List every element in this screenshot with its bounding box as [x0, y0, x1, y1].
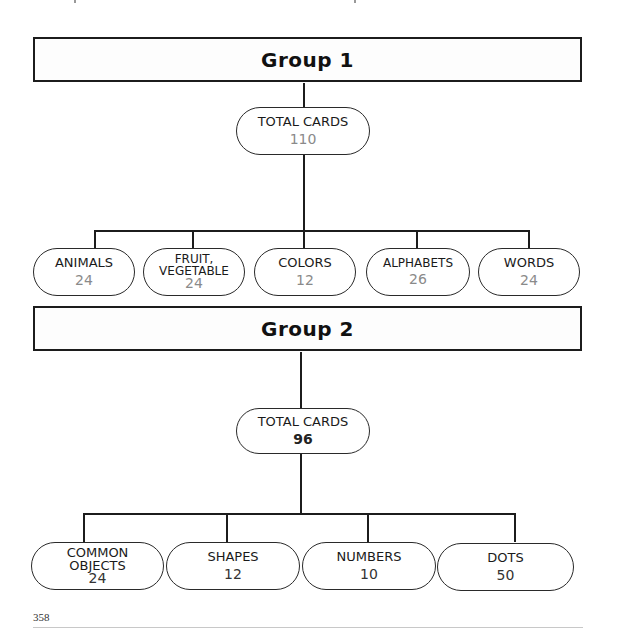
connector-g2-header-total [300, 352, 302, 408]
category-node-numbers: NUMBERS 10 [302, 542, 436, 590]
connector-g2-total-branch [300, 454, 302, 514]
connector-g2-drop-1 [83, 513, 85, 542]
connector-g2-branch-bar [83, 513, 516, 515]
total-count: 96 [293, 432, 312, 447]
connector-g1-drop-3 [303, 230, 305, 248]
group-2-title: Group 2 [261, 317, 354, 341]
category-label: DOTS [487, 551, 523, 565]
category-count: 50 [497, 568, 515, 583]
category-label: COMMON OBJECTS [67, 546, 129, 572]
category-label: ANIMALS [55, 256, 113, 270]
category-node-colors: COLORS 12 [254, 248, 356, 296]
category-node-dots: DOTS 50 [437, 543, 574, 591]
group-2-header: Group 2 [33, 306, 582, 351]
total-label: TOTAL CARDS [258, 415, 349, 429]
group-2-total-node: TOTAL CARDS 96 [236, 408, 370, 454]
connector-g2-drop-4 [514, 513, 516, 542]
category-count: 10 [360, 567, 378, 582]
category-label: ALPHABETS [383, 257, 453, 270]
connector-g2-drop-3 [367, 513, 369, 542]
category-node-animals: ANIMALS 24 [33, 248, 135, 296]
scan-mark-right [354, 0, 356, 3]
group-1-title: Group 1 [261, 48, 354, 72]
category-count: 26 [409, 272, 427, 287]
page-number: 358 [33, 611, 50, 623]
connector-g1-drop-2 [192, 230, 194, 248]
total-count: 110 [290, 132, 317, 147]
category-count: 24 [520, 273, 538, 288]
connector-g1-drop-4 [416, 230, 418, 248]
connector-g1-header-total [303, 83, 305, 107]
category-label: FRUIT, VEGETABLE [159, 253, 229, 277]
category-node-words: WORDS 24 [478, 248, 580, 296]
group-1-header: Group 1 [33, 37, 582, 82]
category-node-shapes: SHAPES 12 [166, 542, 300, 590]
category-count: 24 [75, 273, 93, 288]
category-count: 12 [296, 273, 314, 288]
category-node-common-objects: COMMON OBJECTS 24 [31, 542, 164, 590]
connector-g1-drop-5 [528, 230, 530, 248]
total-label: TOTAL CARDS [258, 115, 349, 129]
connector-g1-branch-bar [94, 230, 530, 232]
category-label: SHAPES [207, 550, 258, 564]
scan-mark-left [74, 0, 76, 3]
category-count: 12 [224, 567, 242, 582]
category-count: 24 [89, 571, 107, 586]
category-count: 24 [185, 276, 203, 291]
category-label: COLORS [278, 256, 332, 270]
connector-g2-drop-2 [226, 513, 228, 542]
category-node-fruit-vegetable: FRUIT, VEGETABLE 24 [143, 248, 245, 296]
category-node-alphabets: ALPHABETS 26 [366, 248, 470, 296]
category-label: NUMBERS [337, 550, 402, 564]
category-label: WORDS [504, 256, 554, 270]
connector-g1-total-branch [303, 155, 305, 232]
group-1-total-node: TOTAL CARDS 110 [236, 107, 370, 155]
footer-rule [33, 627, 583, 628]
connector-g1-drop-1 [94, 230, 96, 248]
